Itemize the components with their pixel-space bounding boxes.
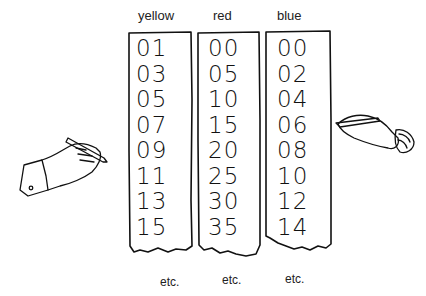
left-hand-icon [20, 138, 107, 196]
value-cell: 09 [136, 138, 167, 164]
value-cell: 11 [136, 164, 167, 190]
column-values-red: 00 05 10 15 20 25 30 35 [208, 36, 239, 240]
column-values-blue: 00 02 04 06 08 10 12 14 [277, 36, 308, 240]
value-cell: 14 [277, 215, 308, 241]
value-cell: 15 [208, 113, 239, 139]
column-label-blue: blue [277, 8, 302, 23]
value-cell: 30 [208, 189, 239, 215]
value-cell: 05 [136, 87, 167, 113]
footer-etc-red: etc. [222, 273, 241, 287]
value-cell: 03 [136, 62, 167, 88]
value-cell: 35 [208, 215, 239, 241]
value-cell: 10 [208, 87, 239, 113]
column-label-red: red [213, 8, 232, 23]
right-hand-icon [336, 115, 414, 152]
value-cell: 07 [136, 113, 167, 139]
value-cell: 15 [136, 215, 167, 241]
value-cell: 01 [136, 36, 167, 62]
value-cell: 00 [208, 36, 239, 62]
value-cell: 13 [136, 189, 167, 215]
value-cell: 10 [277, 164, 308, 190]
value-cell: 02 [277, 62, 308, 88]
value-cell: 06 [277, 113, 308, 139]
footer-etc-yellow: etc. [160, 275, 179, 289]
value-cell: 05 [208, 62, 239, 88]
column-label-yellow: yellow [138, 8, 174, 23]
value-cell: 08 [277, 138, 308, 164]
value-cell: 04 [277, 87, 308, 113]
value-cell: 12 [277, 189, 308, 215]
footer-etc-blue: etc. [285, 272, 304, 286]
value-cell: 00 [277, 36, 308, 62]
column-values-yellow: 01 03 05 07 09 11 13 15 [136, 36, 167, 240]
value-cell: 20 [208, 138, 239, 164]
value-cell: 25 [208, 164, 239, 190]
